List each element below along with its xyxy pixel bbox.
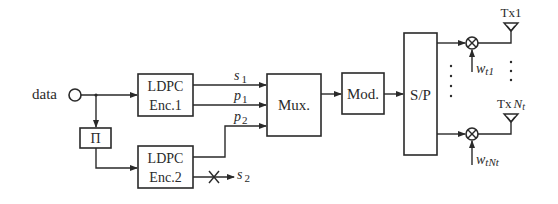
branch-nt: wtNt TxNt xyxy=(437,96,525,168)
signal-s1-label: s1 xyxy=(234,68,247,85)
mod-label: Mod. xyxy=(347,86,379,102)
antenna-1-icon xyxy=(504,23,518,31)
enc1-line2: Enc.1 xyxy=(149,98,181,113)
ldpc-encoder-1-block: LDPC Enc.1 xyxy=(138,74,193,116)
serial-to-parallel-block: S/P xyxy=(404,33,437,155)
enc2-line1: LDPC xyxy=(148,151,184,166)
antenna-nt-label: TxNt xyxy=(497,96,525,112)
ldpc-encoder-2-block: LDPC Enc.2 xyxy=(138,146,193,188)
antenna-1-label: Tx1 xyxy=(501,5,522,20)
signal-s2-label: s2 xyxy=(237,167,250,184)
multiplier-nt-icon xyxy=(466,128,478,140)
interleaver-label: Π xyxy=(90,131,100,146)
enc1-line1: LDPC xyxy=(148,79,184,94)
weight-nt-label: wtNt xyxy=(476,152,500,168)
sp-label: S/P xyxy=(410,87,431,103)
ldpc-transmitter-diagram: data Π LDPC Enc.1 LDPC Enc.2 s1 p1 p2 s2… xyxy=(0,0,558,204)
antenna-nt-icon xyxy=(504,114,518,122)
weight-1-label: wt1 xyxy=(476,61,494,77)
multiplier-1-icon xyxy=(466,37,478,49)
enc2-line2: Enc.2 xyxy=(149,170,181,185)
branch-1: wt1 Tx1 xyxy=(437,5,521,77)
mux-block: Mux. xyxy=(267,74,321,136)
input-node-icon xyxy=(69,89,81,101)
modulator-block: Mod. xyxy=(342,73,384,114)
signal-p1-label: p1 xyxy=(233,88,248,105)
interleaver-block: Π xyxy=(80,128,111,148)
arrow-p2 xyxy=(193,126,266,157)
signal-p2-label: p2 xyxy=(233,109,248,126)
arrow-interleaver-to-enc2 xyxy=(96,148,137,168)
input-label: data xyxy=(32,86,57,102)
mux-label: Mux. xyxy=(278,97,310,113)
